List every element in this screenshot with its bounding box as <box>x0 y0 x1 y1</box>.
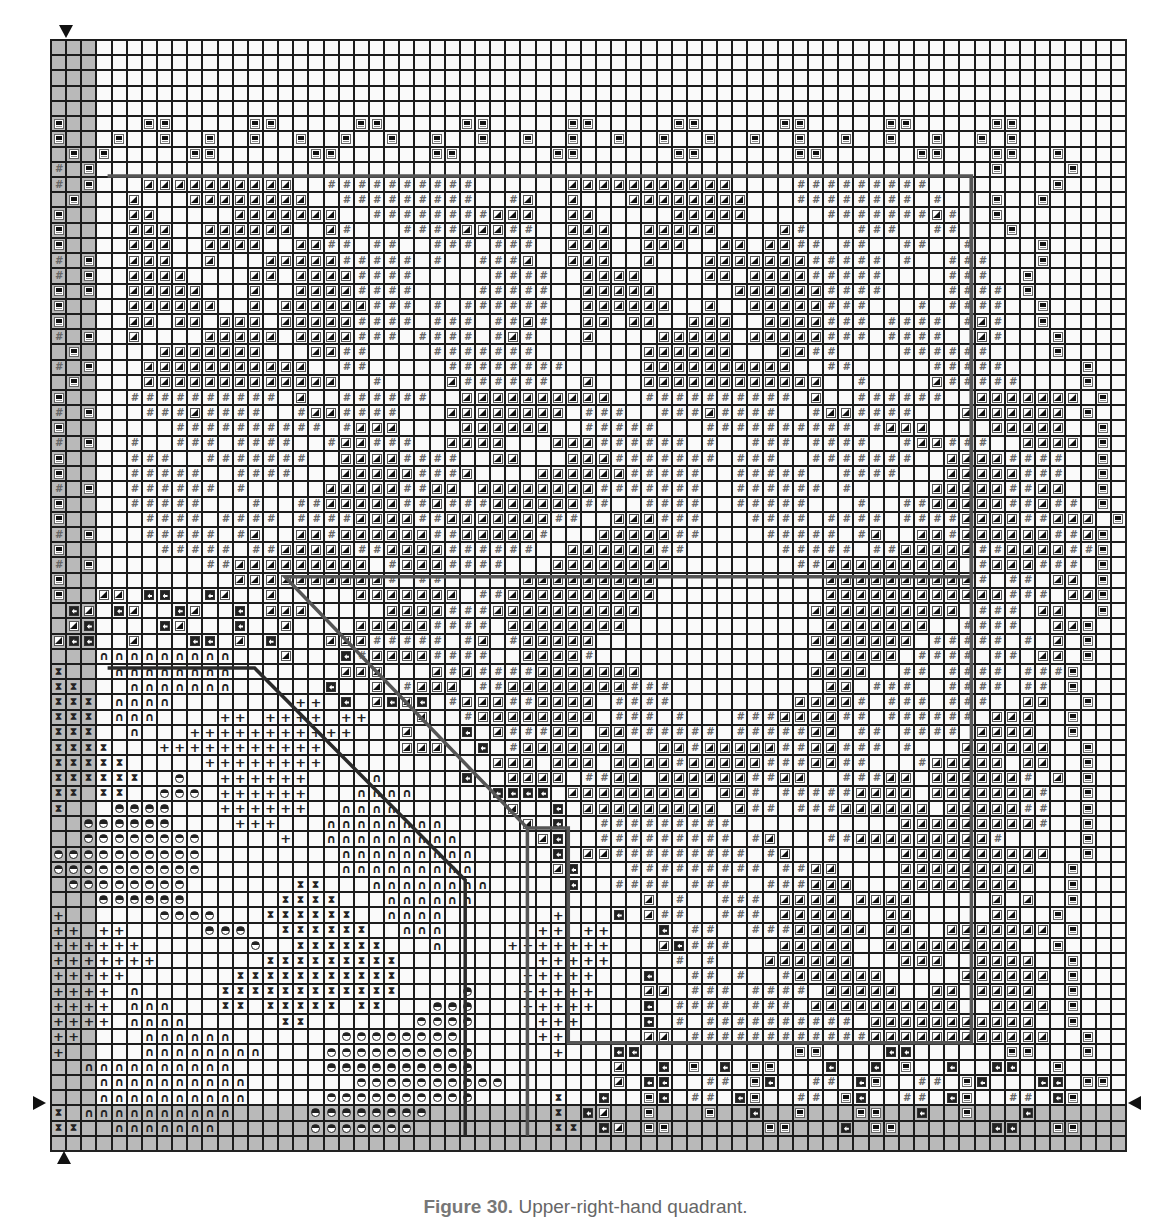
hourglass-symbol-icon: ⧗ <box>69 773 79 783</box>
hash-symbol-icon: # <box>387 180 397 190</box>
hash-symbol-icon: # <box>629 712 639 722</box>
triangle-symbol-icon <box>538 667 548 677</box>
grid-cell <box>595 465 610 480</box>
grid-cell <box>701 800 716 815</box>
bar-box-symbol-icon <box>1083 773 1093 783</box>
hash-symbol-icon: # <box>992 621 1002 631</box>
grid-cell: # <box>868 191 883 206</box>
grid-cell <box>868 556 883 571</box>
hash-symbol-icon: # <box>750 986 760 996</box>
triangle-symbol-icon <box>402 560 412 570</box>
grid-cell: # <box>837 359 852 374</box>
hourglass-symbol-icon: ⧗ <box>296 956 306 966</box>
grid-cell <box>171 846 186 861</box>
grid-cell <box>111 328 126 343</box>
triangle-symbol-icon <box>689 362 699 372</box>
grid-cell: # <box>640 450 655 465</box>
grid-cell <box>413 359 428 374</box>
grid-cell <box>368 648 383 663</box>
grid-cell <box>126 404 141 419</box>
grid-cell <box>489 511 504 526</box>
grid-cell: ∩ <box>429 937 444 952</box>
grid-cell <box>277 359 292 374</box>
grid-cell: # <box>338 252 353 267</box>
grid-cell <box>50 541 65 556</box>
grid-cell <box>837 374 852 389</box>
triangle-symbol-icon <box>886 925 896 935</box>
grid-cell <box>201 267 216 282</box>
grid-cell <box>111 1028 126 1043</box>
hash-symbol-icon: # <box>901 727 911 737</box>
grid-cell: # <box>913 389 928 404</box>
grid-cell <box>837 1135 852 1150</box>
grid-cell <box>307 648 322 663</box>
grid-cell: ⧗ <box>95 754 110 769</box>
grid-cell: # <box>762 724 777 739</box>
grid-cell <box>141 602 156 617</box>
hash-symbol-icon: # <box>599 438 609 448</box>
grid-cell <box>474 785 489 800</box>
grid-cell <box>913 556 928 571</box>
half-circle-symbol-icon <box>190 789 199 798</box>
grid-cell <box>111 617 126 632</box>
grid-cell <box>989 404 1004 419</box>
grid-cell <box>610 465 625 480</box>
triangle-symbol-icon <box>917 819 927 829</box>
triangle-symbol-icon <box>689 317 699 327</box>
arch-symbol-icon: ∩ <box>190 1047 200 1057</box>
triangle-symbol-icon <box>886 423 896 433</box>
hash-symbol-icon: # <box>780 971 790 981</box>
triangle-symbol-icon <box>886 621 896 631</box>
grid-cell: + <box>519 937 534 952</box>
grid-cell: # <box>762 389 777 404</box>
hash-symbol-icon: # <box>523 225 533 235</box>
grid-cell <box>913 1028 928 1043</box>
grid-cell <box>656 313 671 328</box>
triangle-symbol-icon <box>356 530 366 540</box>
grid-cell <box>1064 693 1079 708</box>
triangle-symbol-icon <box>674 195 684 205</box>
grid-cell <box>201 693 216 708</box>
bar-box-symbol-icon <box>69 347 79 357</box>
arch-symbol-icon: ∩ <box>387 864 397 874</box>
bar-box-symbol-icon <box>1007 119 1017 129</box>
grid-cell: # <box>746 511 761 526</box>
triangle-symbol-icon <box>583 286 593 296</box>
grid-cell <box>1004 130 1019 145</box>
grid-cell <box>277 206 292 221</box>
grid-cell <box>731 176 746 191</box>
grid-cell: # <box>762 450 777 465</box>
grid-cell <box>1019 861 1034 876</box>
hash-symbol-icon: # <box>871 393 881 403</box>
grid-cell: # <box>50 480 65 495</box>
grid-cell <box>474 480 489 495</box>
grid-cell <box>580 633 595 648</box>
grid-cell: # <box>958 648 973 663</box>
grid-cell: ⧗ <box>323 983 338 998</box>
grid-cell <box>459 587 474 602</box>
grid-cell <box>731 526 746 541</box>
grid-cell <box>323 739 338 754</box>
hash-symbol-icon: # <box>629 864 639 874</box>
grid-cell <box>413 800 428 815</box>
triangle-symbol-icon <box>705 758 715 768</box>
grid-cell: + <box>65 1028 80 1043</box>
hash-symbol-icon: # <box>962 271 972 281</box>
grid-cell <box>50 1059 65 1074</box>
grid-cell: # <box>777 389 792 404</box>
triangle-symbol-icon <box>583 788 593 798</box>
grid-cell <box>1110 283 1125 298</box>
triangle-symbol-icon <box>478 225 488 235</box>
hash-symbol-icon: # <box>977 362 987 372</box>
triangle-symbol-icon <box>992 530 1002 540</box>
grid-cell <box>868 54 883 69</box>
grid-cell <box>1004 998 1019 1013</box>
grid-cell <box>746 1074 761 1089</box>
plus-symbol-icon: + <box>341 727 351 737</box>
grid-cell: ∩ <box>201 1028 216 1043</box>
arch-symbol-icon: ∩ <box>326 819 336 829</box>
bar-box-symbol-icon <box>84 362 94 372</box>
triangle-symbol-icon <box>765 301 775 311</box>
grid-cell <box>610 69 625 84</box>
hash-symbol-icon: # <box>160 454 170 464</box>
